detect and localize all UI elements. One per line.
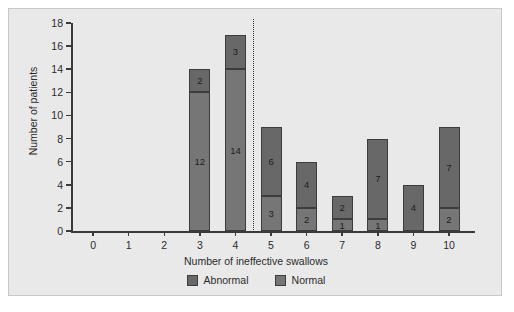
y-tick-label: 0 (37, 226, 63, 237)
bar-segment-abnormal: 4 (403, 185, 424, 231)
x-tick-label: 8 (363, 239, 393, 251)
x-tick-label: 4 (220, 239, 250, 251)
threshold-divider-line (253, 19, 254, 232)
y-axis-line (71, 23, 73, 231)
x-tick-mark (377, 231, 379, 236)
y-tick-mark (66, 161, 71, 163)
y-tick-mark (66, 138, 71, 140)
x-tick-label: 2 (149, 239, 179, 251)
legend-label: Abnormal (204, 274, 249, 286)
plot-area: 024681012141618 012345678910 12214336241… (71, 23, 475, 231)
legend-swatch-icon (187, 275, 198, 286)
x-tick-label: 0 (78, 239, 108, 251)
x-axis-title: Number of ineffective swallows (9, 255, 503, 267)
x-tick-label: 6 (292, 239, 322, 251)
bar-segment-abnormal: 6 (261, 127, 282, 196)
legend-item: Abnormal (187, 274, 249, 286)
x-tick-mark (128, 231, 130, 236)
x-tick-mark (92, 231, 94, 236)
y-tick-label: 2 (37, 203, 63, 214)
chart-figure: Number of patients Number of ineffective… (8, 8, 502, 296)
y-tick-label: 10 (37, 110, 63, 121)
chart-legend: AbnormalNormal (9, 274, 503, 286)
bar-segment-abnormal: 7 (367, 139, 388, 220)
x-tick-mark (413, 231, 415, 236)
y-tick-label: 8 (37, 134, 63, 145)
y-tick-label: 18 (37, 18, 63, 29)
y-tick-mark (66, 207, 71, 209)
x-tick-label: 5 (256, 239, 286, 251)
y-tick-mark (66, 45, 71, 47)
bar-segment-normal: 12 (189, 92, 210, 231)
bar-segment-abnormal: 7 (439, 127, 460, 208)
x-tick-mark (448, 231, 450, 236)
x-axis-line (71, 231, 475, 233)
x-tick-mark (235, 231, 237, 236)
x-tick-label: 7 (327, 239, 357, 251)
y-tick-mark (66, 92, 71, 94)
y-tick-mark (66, 230, 71, 232)
x-tick-mark (341, 231, 343, 236)
x-tick-label: 9 (398, 239, 428, 251)
bar-segment-abnormal: 3 (225, 35, 246, 70)
y-tick-label: 12 (37, 87, 63, 98)
bar-segment-normal: 2 (296, 208, 317, 231)
y-tick-label: 6 (37, 157, 63, 168)
bar-segment-abnormal: 2 (332, 196, 353, 219)
y-tick-mark (66, 115, 71, 117)
bar-segment-normal: 1 (332, 219, 353, 231)
bar-segment-abnormal: 2 (189, 69, 210, 92)
x-tick-label: 10 (434, 239, 464, 251)
bar-segment-normal: 1 (367, 219, 388, 231)
bar-segment-abnormal: 4 (296, 162, 317, 208)
x-tick-mark (306, 231, 308, 236)
bar-segment-normal: 2 (439, 208, 460, 231)
x-tick-mark (199, 231, 201, 236)
y-tick-label: 14 (37, 64, 63, 75)
bar-segment-normal: 3 (261, 196, 282, 231)
legend-swatch-icon (275, 275, 286, 286)
bar-segment-normal: 14 (225, 69, 246, 231)
legend-item: Normal (275, 274, 326, 286)
x-tick-mark (164, 231, 166, 236)
y-tick-mark (66, 68, 71, 70)
y-tick-mark (66, 184, 71, 186)
x-tick-mark (270, 231, 272, 236)
y-tick-label: 16 (37, 41, 63, 52)
x-tick-label: 1 (114, 239, 144, 251)
y-tick-label: 4 (37, 180, 63, 191)
x-tick-label: 3 (185, 239, 215, 251)
y-tick-mark (66, 22, 71, 24)
legend-label: Normal (292, 274, 326, 286)
